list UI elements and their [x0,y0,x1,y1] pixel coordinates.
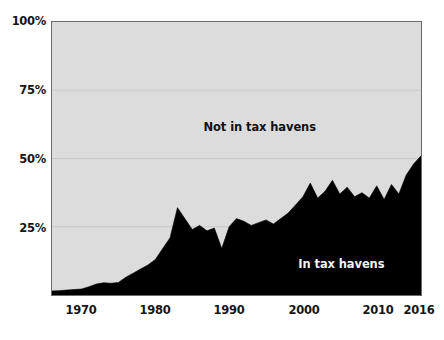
x-tick-label-1990: 1990 [214,303,245,317]
y-tick-label-50: 50% [0,152,46,166]
y-tick-label-100: 100% [0,14,46,28]
y-tick-label-25: 25% [0,221,46,235]
x-tick-label-2000: 2000 [289,303,320,317]
x-tick-label-1970: 1970 [66,303,97,317]
x-tick-label-1980: 1980 [140,303,171,317]
y-tick-label-75: 75% [0,83,46,97]
series-layer [52,156,421,295]
chart-figure: 100% 75% 50% 25% 1970 1980 1990 2000 201… [0,0,444,340]
area-series-in-tax-havens [52,156,421,295]
annotation-in-tax-havens: In tax havens [298,257,384,271]
x-tick-label-2010: 2010 [363,303,394,317]
plot-area: Not in tax havens In tax havens [51,21,422,296]
x-tick-label-2016: 2016 [404,303,435,317]
annotation-not-in-tax-havens: Not in tax havens [204,120,316,134]
area-chart-svg [52,22,421,295]
